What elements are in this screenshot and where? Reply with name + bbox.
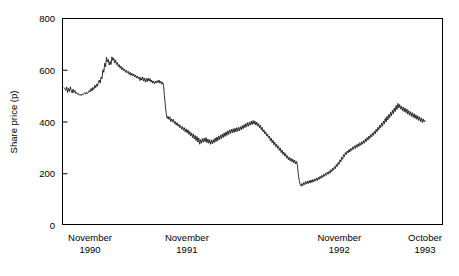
x-axis-tick-label-year: 1991 — [176, 244, 197, 255]
x-axis-tick-label-month: October — [408, 232, 442, 243]
y-axis-tick-label: 400 — [39, 117, 55, 128]
y-axis-title: Share price (p) — [8, 91, 19, 154]
y-axis-tick-label: 200 — [39, 168, 55, 179]
x-axis-tick-label-year: 1992 — [329, 244, 350, 255]
y-axis-tick-label: 600 — [39, 65, 55, 76]
x-axis-tick-label-year: 1993 — [414, 244, 435, 255]
x-axis-tick-labels: November1990November1991November1992Octo… — [68, 232, 442, 255]
share-price-chart: 0200400600800 Share price (p) November19… — [0, 0, 459, 276]
y-axis-tick-labels: 0200400600800 — [39, 13, 55, 231]
x-axis-tick-label-month: November — [165, 232, 209, 243]
x-axis-tick-label-month: November — [317, 232, 361, 243]
y-axis-tick-label: 800 — [39, 13, 55, 24]
y-axis-tick-label: 0 — [50, 220, 55, 231]
x-axis-tick-label-year: 1990 — [79, 244, 100, 255]
x-axis-tick-label-month: November — [68, 232, 112, 243]
chart-canvas: 0200400600800 Share price (p) November19… — [0, 0, 459, 276]
